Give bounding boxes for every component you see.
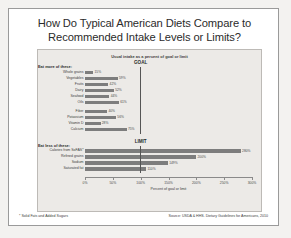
bar: Fruits42% [85, 83, 108, 87]
bar-value-label: 59% [119, 76, 126, 80]
limit-label: LIMIT [135, 139, 147, 144]
x-axis-tick-label: 300% [248, 181, 257, 185]
bar-category-label: Fruits [75, 82, 84, 87]
title-line-1: How Do Typical American Diets Compare to [38, 17, 251, 29]
screenshot-root: How Do Typical American Diets Compare to… [0, 0, 291, 238]
bar: Calcium75% [85, 128, 127, 132]
x-axis-tick-label: 250% [220, 181, 229, 185]
chart-subtitle: Usual intake as a percent of goal or lim… [38, 54, 261, 59]
bar-value-label: 200% [198, 155, 206, 159]
bar-value-label: 75% [128, 127, 135, 131]
footnote: * Solid Fats and Added Sugars [19, 214, 68, 218]
x-axis-tick [141, 177, 142, 180]
bar: Calories from SoFAS*280% [85, 149, 241, 153]
chart-plot-area: Eat more of these:Whole grains15%Vegetab… [85, 64, 252, 191]
bar-category-label: Fiber [76, 109, 84, 114]
bar-value-label: 28% [102, 121, 109, 125]
bar-value-label: 56% [117, 115, 124, 119]
bar-value-label: 15% [95, 70, 102, 74]
bar: Potassium56% [85, 116, 116, 120]
bar: Vegetables59% [85, 77, 118, 81]
bar-category-label: Refined grains [61, 154, 84, 159]
x-axis-tick [113, 177, 114, 180]
bar-category-label: Whole grains [63, 70, 83, 75]
x-axis-tick [196, 177, 197, 180]
x-axis-tick [224, 177, 225, 180]
group-heading: Eat more of these: [38, 64, 72, 69]
source-note: Source: USDA & HHS. Dietary Guidelines f… [169, 214, 268, 218]
bar-value-label: 149% [169, 161, 177, 165]
bar-category-label: Saturated fat [63, 166, 83, 171]
x-axis-tick-label: 200% [192, 181, 201, 185]
x-axis-tick [169, 177, 170, 180]
bar-value-label: 61% [120, 100, 127, 104]
bar: Oils61% [85, 101, 119, 105]
goal-reference-line [140, 67, 142, 134]
bar-category-label: Calcium [71, 127, 84, 132]
chart-panel: Usual intake as a percent of goal or lim… [37, 49, 262, 212]
bar: Sodium149% [85, 161, 168, 165]
limit-reference-line [140, 146, 142, 173]
x-axis-tick-label: 50% [109, 181, 116, 185]
bar-value-label: 40% [108, 109, 115, 113]
x-axis-tick-label: 0% [83, 181, 88, 185]
bar: Seafood44% [85, 95, 109, 99]
x-axis-title: Percent of goal or limit [85, 187, 252, 191]
bar: Fiber40% [85, 110, 107, 114]
x-axis-tick-label: 150% [164, 181, 173, 185]
bar: Dairy52% [85, 89, 114, 93]
bar-value-label: 42% [110, 82, 117, 86]
bar-category-label: Sodium [72, 160, 84, 165]
bar: Saturated fat110% [85, 167, 146, 171]
x-axis-tick-label: 100% [136, 181, 145, 185]
slide-card: How Do Typical American Diets Compare to… [8, 8, 279, 226]
page-title: How Do Typical American Diets Compare to… [19, 17, 270, 44]
bar-category-label: Potassium [67, 115, 83, 120]
x-axis-tick [85, 177, 86, 180]
x-axis-tick [252, 177, 253, 180]
bar-category-label: Oils [77, 100, 83, 105]
bar-category-label: Vegetables [66, 76, 83, 81]
bar-category-label: Vitamin D [68, 121, 83, 126]
bar-category-label: Calories from SoFAS* [49, 148, 83, 153]
bar-value-label: 280% [242, 149, 250, 153]
bar-value-label: 44% [111, 94, 118, 98]
bar: Vitamin D28% [85, 122, 101, 126]
goal-label: GOAL [134, 60, 147, 65]
bar-value-label: 52% [115, 88, 122, 92]
group-heading: Eat less of these: [38, 143, 70, 148]
bar: Whole grains15% [85, 71, 93, 75]
bar-category-label: Seafood [70, 94, 83, 99]
bar-category-label: Dairy [75, 88, 83, 93]
title-line-2: Recommended Intake Levels or Limits? [19, 31, 270, 45]
bar-value-label: 110% [147, 167, 155, 171]
